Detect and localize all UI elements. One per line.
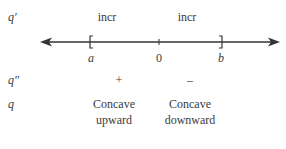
- q-prime-sign-right: incr: [178, 10, 197, 24]
- row-label-q-prime: q′: [8, 10, 17, 24]
- point-label-zero: 0: [156, 51, 162, 65]
- concavity-left: Concave upward: [93, 97, 135, 127]
- concavity-left-line2: upward: [93, 113, 135, 127]
- q-prime-sign-left: incr: [98, 10, 117, 24]
- concavity-right-line2: downward: [165, 113, 216, 127]
- point-label-a: a: [88, 51, 94, 65]
- concavity-left-line1: Concave: [93, 97, 135, 111]
- number-line: [0, 0, 286, 149]
- concavity-right: Concave downward: [165, 97, 216, 127]
- concavity-right-line1: Concave: [165, 97, 216, 111]
- q-double-prime-sign-left: +: [116, 73, 123, 87]
- q-double-prime-sign-right: –: [187, 73, 193, 87]
- point-label-b: b: [218, 51, 224, 65]
- row-label-q-double-prime: q″: [8, 73, 19, 87]
- row-label-q: q: [8, 97, 14, 111]
